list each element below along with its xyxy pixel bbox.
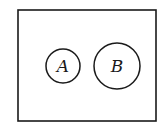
set-a-label: A <box>55 56 69 76</box>
set-a: A <box>46 49 80 83</box>
set-b-label: B <box>110 56 124 76</box>
universal-set-rectangle <box>18 10 156 121</box>
venn-diagram: A B <box>0 0 166 140</box>
set-b: B <box>94 43 140 89</box>
